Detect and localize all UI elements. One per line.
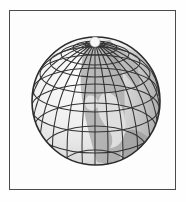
globe-illustration	[0, 0, 186, 202]
north-pole-hub	[90, 37, 100, 47]
screenshot-root	[0, 0, 186, 202]
globe-svg	[0, 0, 186, 202]
